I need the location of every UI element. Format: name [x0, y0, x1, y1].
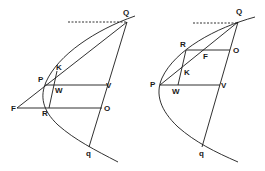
left-figure — [17, 16, 135, 162]
left-label-q: q — [86, 150, 91, 158]
left-label-F: F — [11, 105, 16, 113]
left-label-R: R — [42, 110, 48, 118]
right-label-F: F — [203, 53, 208, 61]
left-label-P: P — [38, 76, 43, 84]
left-label-Q: Q — [123, 9, 129, 17]
right-line-Qq — [202, 22, 238, 147]
right-line-QP — [160, 22, 238, 85]
right-label-V: V — [221, 82, 226, 90]
right-label-Q: Q — [236, 8, 242, 16]
right-label-q: q — [199, 150, 204, 158]
right-label-O: O — [233, 47, 239, 55]
right-label-P: P — [150, 81, 155, 89]
left-label-K: K — [56, 64, 62, 72]
left-label-V: V — [106, 82, 111, 90]
left-label-O: O — [104, 105, 110, 113]
left-line-QF — [17, 22, 127, 108]
right-label-K: K — [184, 69, 190, 77]
right-label-W: W — [172, 88, 180, 96]
right-label-R: R — [180, 41, 186, 49]
left-label-W: W — [55, 87, 63, 95]
